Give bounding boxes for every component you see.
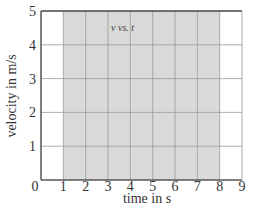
x-tick-label: 0 <box>32 179 39 194</box>
velocity-time-chart: 0123456789 12345 v vs. t time in s veloc… <box>0 0 253 209</box>
x-tick-label: 1 <box>60 179 67 194</box>
y-axis-ticks: 12345 <box>29 4 36 154</box>
x-tick-label: 2 <box>82 179 89 194</box>
x-tick-label: 3 <box>105 179 112 194</box>
y-tick-label: 5 <box>29 4 36 19</box>
y-tick-label: 3 <box>29 72 36 87</box>
x-tick-label: 6 <box>172 179 179 194</box>
x-axis-label: time in s <box>123 191 171 206</box>
y-tick-label: 4 <box>29 38 36 53</box>
y-tick-label: 2 <box>29 105 36 120</box>
shaded-region <box>63 11 219 180</box>
shaded-band <box>63 11 219 180</box>
chart-title: v vs. t <box>111 22 134 33</box>
y-axis-label: velocity in m/s <box>4 54 19 137</box>
y-tick-label: 1 <box>29 139 36 154</box>
x-tick-label: 8 <box>216 179 223 194</box>
x-tick-label: 7 <box>194 179 201 194</box>
x-tick-label: 9 <box>239 179 246 194</box>
